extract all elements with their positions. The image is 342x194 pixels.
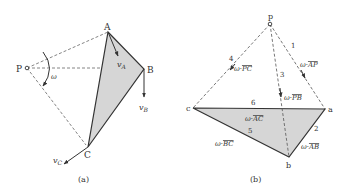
dashed-ray-pc [193,24,270,108]
label-omega: ω [51,73,57,81]
edge-number-1: 1 [291,42,295,50]
label-P: P [16,64,22,74]
panel-a: A B C P ω vA vB vC (a) [16,22,154,184]
diagram-canvas: A B C P ω vA vB vC (a) p a b c 1 2 3 4 5… [0,0,342,194]
edge-number-3: 3 [280,71,284,79]
label-A: A [103,22,111,32]
label-omega-AB: ω·AB [301,143,319,151]
caption-b: (b) [250,175,261,184]
label-p: p [268,12,273,21]
omega-arc-icon [43,52,50,86]
label-omega-AC: ω·AC [245,115,264,123]
label-omega-AP: ω·AP [300,61,318,69]
edge-number-6: 6 [251,99,256,107]
label-c: c [186,104,191,113]
label-omega-PC: ω·PC [234,65,253,73]
pole-P-icon [25,66,29,70]
label-C: C [84,150,91,160]
caption-a: (a) [78,175,89,184]
label-omega-BC: ω·BC [215,140,234,148]
arrow-1-head [301,70,305,78]
pole-p-icon [268,22,272,26]
label-vC: vC [53,156,63,166]
label-B: B [147,65,154,75]
edge-number-4: 4 [229,55,234,63]
label-vB: vB [139,103,149,113]
edge-number-5: 5 [248,127,252,135]
label-a: a [328,105,333,114]
panel-b: p a b c 1 2 3 4 5 6 ω·AP ω·PC ω·PB ω·AC … [186,12,333,184]
label-omega-PB: ω·PB [284,94,302,102]
dashed-line-PA [27,32,108,68]
label-b: b [286,161,291,170]
edge-number-2: 2 [314,125,318,133]
rigid-body-triangle [88,32,144,147]
